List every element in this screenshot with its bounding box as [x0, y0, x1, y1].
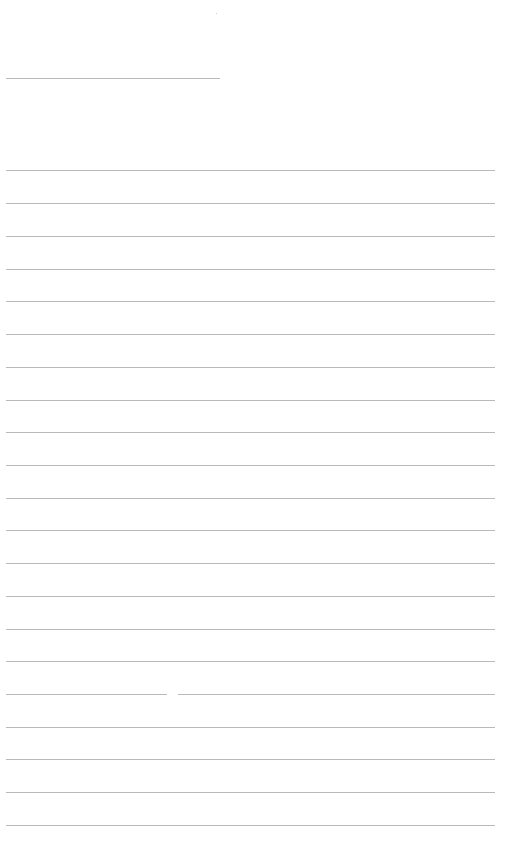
ruled-line: [6, 465, 495, 466]
ruled-line: [6, 596, 495, 597]
ruled-line: [6, 563, 495, 564]
ruled-line: [6, 759, 495, 760]
ruled-line: [6, 170, 495, 171]
ruled-line: [6, 334, 495, 335]
ruled-line: [6, 530, 495, 531]
ruled-line: [6, 694, 495, 695]
ruled-line: [6, 203, 495, 204]
ruled-line: [6, 367, 495, 368]
ruled-line: [6, 236, 495, 237]
scan-speck: [216, 13, 217, 14]
ruled-line: [6, 400, 495, 401]
ruled-line: [6, 498, 495, 499]
ruled-line: [6, 661, 495, 662]
ruled-line: [6, 727, 495, 728]
ruled-line: [6, 301, 495, 302]
line-break-gap: [167, 693, 178, 696]
ruled-line: [6, 269, 495, 270]
lined-paper-page: [0, 0, 527, 868]
header-line: [6, 78, 220, 79]
ruled-line: [6, 825, 495, 826]
ruled-line: [6, 629, 495, 630]
ruled-line: [6, 432, 495, 433]
ruled-line: [6, 792, 495, 793]
